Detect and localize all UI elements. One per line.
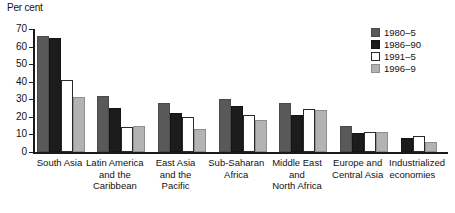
y-axis-tick bbox=[29, 64, 33, 65]
x-axis-category-label: East Asia and the Pacific bbox=[145, 157, 206, 192]
bar bbox=[291, 115, 303, 152]
bar bbox=[133, 126, 145, 152]
bar bbox=[255, 120, 267, 153]
bar bbox=[73, 97, 85, 152]
bar bbox=[194, 129, 206, 152]
bar bbox=[279, 103, 291, 152]
bar bbox=[376, 132, 388, 152]
legend-swatch-icon bbox=[371, 28, 380, 37]
legend-label: 1991–5 bbox=[384, 51, 416, 62]
bar bbox=[303, 109, 315, 152]
legend-item: 1986–90 bbox=[371, 39, 421, 50]
bar bbox=[158, 103, 170, 152]
bar bbox=[315, 110, 327, 152]
bar-group bbox=[219, 29, 267, 152]
bar-group bbox=[37, 29, 85, 152]
legend-item: 1980–5 bbox=[371, 27, 421, 38]
bar bbox=[231, 106, 243, 152]
legend-label: 1980–5 bbox=[384, 27, 416, 38]
legend-item: 1996–9 bbox=[371, 63, 421, 74]
bar bbox=[182, 117, 194, 152]
x-axis-category-label: Sub-Saharan Africa bbox=[206, 157, 267, 180]
x-axis-category-label: Middle East and North Africa bbox=[267, 157, 328, 192]
bar bbox=[352, 133, 364, 152]
bar bbox=[425, 142, 437, 152]
bar-chart: Per cent 010203040506070 South AsiaLatin… bbox=[0, 0, 455, 213]
y-axis-tick-label: 50 bbox=[16, 59, 27, 69]
x-axis-category-label: Industrialized economies bbox=[388, 157, 437, 180]
bar bbox=[413, 136, 425, 152]
y-axis-tick bbox=[29, 82, 33, 83]
bar bbox=[121, 127, 133, 152]
y-axis-tick-label: 20 bbox=[16, 112, 27, 122]
y-axis-tick-label: 30 bbox=[16, 94, 27, 104]
y-axis-tick bbox=[29, 29, 33, 30]
bar bbox=[37, 36, 49, 152]
bar bbox=[170, 113, 182, 152]
x-axis-category-labels: South AsiaLatin America and the Caribbea… bbox=[35, 157, 450, 211]
bar-group bbox=[279, 29, 327, 152]
legend-swatch-icon bbox=[371, 52, 380, 61]
legend-item: 1991–5 bbox=[371, 51, 421, 62]
bar bbox=[243, 115, 255, 152]
y-axis-tick bbox=[29, 117, 33, 118]
bar-group bbox=[158, 29, 206, 152]
bar bbox=[97, 96, 109, 152]
legend-swatch-icon bbox=[371, 64, 380, 73]
bar bbox=[364, 132, 376, 152]
legend-swatch-icon bbox=[371, 40, 380, 49]
y-axis-tick bbox=[29, 99, 33, 100]
x-axis-category-label: Europe and Central Asia bbox=[327, 157, 388, 180]
y-axis-tick bbox=[29, 152, 33, 153]
legend-label: 1996–9 bbox=[384, 63, 416, 74]
bar bbox=[109, 108, 121, 152]
x-axis-category-label: Latin America and the Caribbean bbox=[85, 157, 146, 192]
y-axis-tick-label: 70 bbox=[16, 24, 27, 34]
bar bbox=[219, 99, 231, 152]
y-axis-tick-label: 40 bbox=[16, 77, 27, 87]
bar bbox=[401, 138, 413, 152]
bar-group bbox=[97, 29, 145, 152]
y-axis-tick bbox=[29, 47, 33, 48]
y-axis-title: Per cent bbox=[7, 2, 43, 13]
legend-label: 1986–90 bbox=[384, 39, 421, 50]
x-axis-category-label: South Asia bbox=[35, 157, 85, 169]
chart-legend: 1980–51986–901991–51996–9 bbox=[371, 27, 421, 74]
y-axis-tick-label: 60 bbox=[16, 42, 27, 52]
bar bbox=[49, 38, 61, 152]
y-axis-tick-label: 0 bbox=[21, 147, 27, 157]
y-axis-tick-label: 10 bbox=[16, 129, 27, 139]
bar bbox=[61, 80, 73, 152]
y-axis-tick bbox=[29, 134, 33, 135]
bar bbox=[340, 126, 352, 152]
x-axis-line bbox=[33, 152, 448, 154]
